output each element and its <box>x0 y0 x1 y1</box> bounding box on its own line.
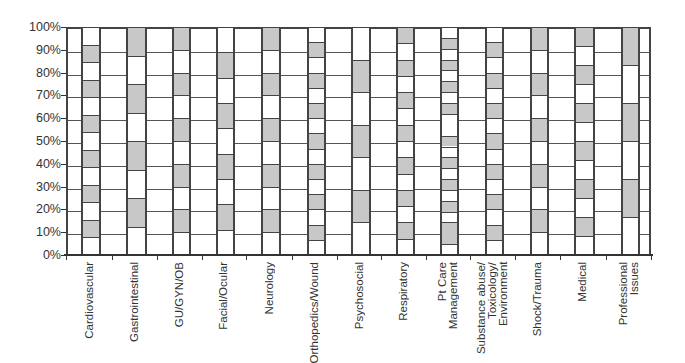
bar-segment <box>576 65 593 84</box>
bar-gu-gyn-ob <box>172 27 191 255</box>
bar-segment <box>83 220 99 238</box>
bar-segment <box>83 167 99 185</box>
x-tick-label: Respiratory <box>398 262 409 321</box>
bar-segment <box>442 70 457 81</box>
bar-segment <box>309 164 324 179</box>
bar-segment <box>487 73 502 88</box>
bar-segment <box>263 73 279 96</box>
x-tick-label: Substance abuse/ Toxicology/ Environment <box>476 262 509 354</box>
bar-segment <box>353 222 369 255</box>
bar-segment <box>83 45 99 63</box>
bar-segment <box>309 88 324 103</box>
bar-segment <box>576 198 593 217</box>
bar-segment <box>532 232 547 255</box>
bar-segment <box>398 141 413 157</box>
bar-segment <box>218 52 233 77</box>
y-tick-label: 90% <box>36 43 61 57</box>
bar-segment <box>218 204 233 229</box>
bar-segment <box>442 136 457 147</box>
bar-segment <box>487 27 502 42</box>
x-tick-label: Cardiovascular <box>84 262 95 339</box>
bar-segment <box>487 225 502 240</box>
bar-segment <box>576 46 593 65</box>
bar-segment <box>442 92 457 103</box>
bar-segment <box>218 27 233 52</box>
y-tick-label: 100% <box>29 20 61 34</box>
bar-segment <box>309 240 324 255</box>
bar-segment <box>353 60 369 93</box>
y-tick-label: 20% <box>36 202 61 216</box>
bar-segment <box>398 239 413 255</box>
bar-segment <box>442 168 457 179</box>
bar-segment <box>218 230 233 255</box>
bar-segment <box>309 149 324 164</box>
x-tick-mark <box>426 255 427 260</box>
bar-segment <box>623 103 638 141</box>
bar-segment <box>576 141 593 160</box>
bar-segment <box>442 103 457 114</box>
bar-segment <box>532 73 547 96</box>
bar-segment <box>263 141 279 164</box>
bar-segment <box>353 125 369 157</box>
x-tick-label: Pt Care Management <box>437 262 459 329</box>
bar-segment <box>398 125 413 141</box>
bar-segment <box>83 202 99 220</box>
y-tick-label: 70% <box>36 88 61 102</box>
bar-segment <box>309 73 324 88</box>
bar-segment <box>353 157 369 190</box>
bar-pt-care-management <box>440 27 459 255</box>
x-tick-mark <box>651 255 652 260</box>
bar-segment <box>532 141 547 164</box>
x-tick-label: Psychosocial <box>354 262 365 329</box>
bar-segment <box>442 114 457 136</box>
bar-segment <box>218 179 233 204</box>
bar-segment <box>309 225 324 240</box>
bar-segment <box>398 43 413 59</box>
bar-segment <box>83 237 99 255</box>
bar-segment <box>83 150 99 168</box>
bar-segment <box>83 115 99 133</box>
bar-segment <box>442 49 457 60</box>
bar-segment <box>128 27 145 56</box>
bar-gastrointestinal <box>126 27 147 255</box>
bar-segment <box>487 179 502 194</box>
bar-segment <box>174 95 189 118</box>
bar-segment <box>83 62 99 80</box>
x-tick-label: Neurology <box>264 262 275 314</box>
bar-segment <box>398 108 413 124</box>
x-tick-mark <box>112 255 113 260</box>
bar-segment <box>532 95 547 118</box>
x-tick-mark <box>157 255 158 260</box>
x-tick-mark <box>246 255 247 260</box>
bar-segment <box>398 157 413 173</box>
bar-segment <box>487 42 502 57</box>
bar-segment <box>398 190 413 206</box>
bar-segment <box>309 209 324 224</box>
bar-segment <box>442 190 457 201</box>
bar-segment <box>532 27 547 50</box>
bar-segment <box>532 50 547 73</box>
bar-professional-issues <box>621 27 640 255</box>
bar-segment <box>309 179 324 194</box>
x-tick-mark <box>606 255 607 260</box>
x-tick-label: Gastrointestinal <box>129 262 140 342</box>
bar-segment <box>174 209 189 232</box>
y-tick-label: 0% <box>43 248 61 262</box>
bar-segment <box>532 187 547 210</box>
bar-segment <box>532 164 547 187</box>
bar-segment <box>174 27 189 50</box>
bar-segment <box>623 27 638 65</box>
bar-segment <box>487 209 502 224</box>
bar-segment <box>309 57 324 72</box>
bar-segment <box>398 27 413 43</box>
x-tick-mark <box>381 255 382 260</box>
bar-segment <box>442 222 457 244</box>
bar-segment <box>487 164 502 179</box>
bar-segment <box>532 118 547 141</box>
x-tick-label: Facial/Ocular <box>218 262 229 330</box>
bar-cardiovascular <box>81 27 101 255</box>
bar-segment <box>174 50 189 73</box>
bar-segment <box>576 103 593 122</box>
bar-segment <box>353 92 369 125</box>
bar-segment <box>218 154 233 179</box>
